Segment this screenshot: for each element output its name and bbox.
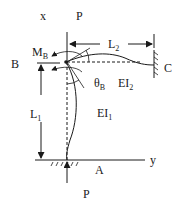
fixed-support-C [154,50,158,78]
joint-B-label: B [11,57,19,71]
deflected-column [66,62,76,160]
EI1-label: EI1 [97,106,112,122]
x-axis-label: x [40,9,46,23]
y-axis-label: y [150,153,156,167]
EI2-label: EI2 [118,76,133,92]
deflected-beam [66,54,154,65]
load-label-top: P [76,9,83,23]
moment-label: MB [32,45,48,61]
theta-arc-column [67,80,79,84]
L1-label: L1 [30,107,41,123]
support-C-label: C [164,61,172,75]
fixed-support-A [51,162,78,166]
frame-diagram: x P MB B L2 C θB EI2 L1 EI1 y A P [0,0,185,204]
theta-label: θB [94,76,105,92]
load-label-bottom: P [83,187,90,201]
support-A-label: A [95,163,104,177]
joint-B-marker [64,60,68,64]
L2-label: L2 [108,37,119,53]
